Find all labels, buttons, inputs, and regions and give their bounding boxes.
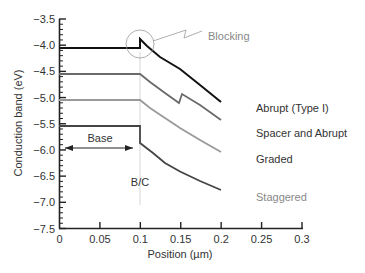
base-label: Base xyxy=(87,132,112,144)
y-tick-label: −5.0 xyxy=(33,92,55,104)
label-staggered: Staggered xyxy=(256,191,307,203)
label-abrupt-type-i: Abrupt (Type I) xyxy=(256,102,329,114)
x-axis-label: Position (µm) xyxy=(147,248,212,260)
y-tick-label: −7.0 xyxy=(33,196,55,208)
x-axis: 00.050.10.150.20.250.3 xyxy=(56,222,309,245)
x-tick-label: 0 xyxy=(56,233,62,245)
y-tick-label: −4.0 xyxy=(33,39,55,51)
x-tick-label: 0.2 xyxy=(214,233,229,245)
y-axis-label: Conduction band (eV) xyxy=(12,69,24,176)
x-tick-label: 0.1 xyxy=(133,233,148,245)
y-axis: −3.5−4.0−4.5−5.0−5.5−6.0−6.5−7.0−7.5 xyxy=(33,13,66,235)
x-tick-label: 0.25 xyxy=(251,233,272,245)
bc-label: B/C xyxy=(131,176,149,188)
label-graded: Graded xyxy=(256,153,293,165)
conduction-band-chart: −3.5−4.0−4.5−5.0−5.5−6.0−6.5−7.0−7.5 00.… xyxy=(0,0,365,273)
x-tick-label: 0.05 xyxy=(89,233,110,245)
x-tick-label: 0.15 xyxy=(170,233,191,245)
y-tick-label: −7.5 xyxy=(33,223,55,235)
y-tick-label: −4.5 xyxy=(33,65,55,77)
y-tick-label: −6.0 xyxy=(33,144,55,156)
label-spacer-and-abrupt: Spacer and Abrupt xyxy=(256,127,347,139)
blocking-zigzag-icon xyxy=(153,30,202,41)
x-tick-label: 0.3 xyxy=(294,233,309,245)
y-tick-label: −3.5 xyxy=(33,13,55,25)
y-tick-label: −6.5 xyxy=(33,170,55,182)
y-tick-label: −5.5 xyxy=(33,118,55,130)
blocking-label: Blocking xyxy=(208,30,250,42)
